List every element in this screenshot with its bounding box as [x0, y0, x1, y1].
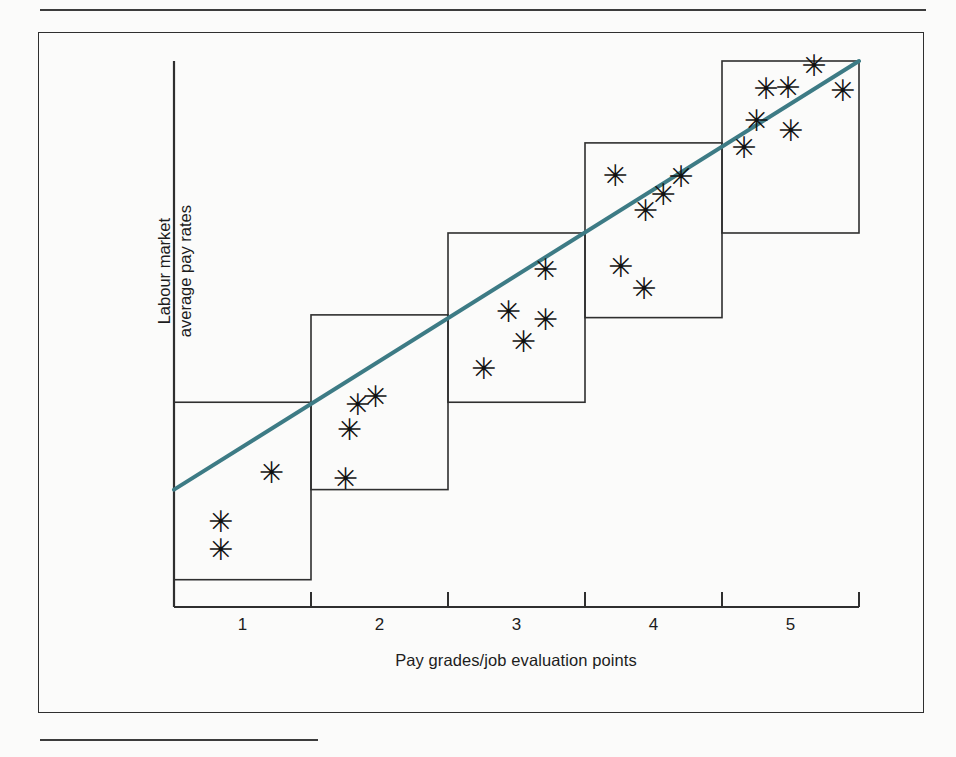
top-rule-divider: [40, 9, 926, 11]
y-axis-title: Labour market average pay rates: [154, 176, 196, 366]
bottom-rule-divider: [40, 739, 318, 741]
y-axis-title-line2: average pay rates: [175, 176, 196, 366]
figure-border: [38, 32, 924, 713]
x-axis-tick-labels: 12345: [174, 615, 859, 641]
x-tick-label-3: 3: [487, 615, 547, 635]
x-tick-label-4: 4: [624, 615, 684, 635]
x-tick-label-1: 1: [213, 615, 273, 635]
y-axis-title-line1: Labour market: [154, 176, 175, 366]
x-tick-label-5: 5: [761, 615, 821, 635]
x-axis-title: Pay grades/job evaluation points: [316, 651, 716, 670]
figure-page: ✳✳✳✳✳✳✳✳✳✳✳✳✳✳✳✳✳✳✳✳✳✳✳✳✳ 12345 Pay grad…: [0, 0, 956, 757]
x-tick-label-2: 2: [350, 615, 410, 635]
